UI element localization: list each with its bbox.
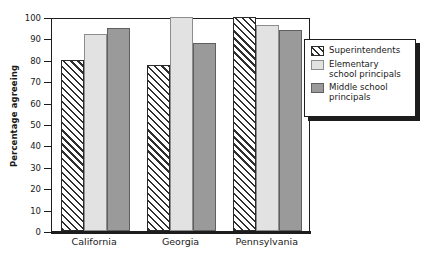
y-axis-tick <box>44 39 51 40</box>
y-axis-tick-label: 80 <box>0 57 41 66</box>
bar <box>107 28 130 231</box>
y-axis-tick <box>44 104 51 105</box>
x-axis-category-label: Pennsylvania <box>207 236 327 247</box>
legend-swatch-icon <box>311 46 324 56</box>
y-axis-tick <box>44 125 51 126</box>
y-axis-tick-label: 40 <box>0 142 41 151</box>
legend-swatch-icon <box>311 60 324 70</box>
bar <box>193 43 216 231</box>
y-axis-tick <box>44 232 51 233</box>
y-axis-tick <box>44 61 51 62</box>
legend-item-label: Superintendents <box>329 45 400 55</box>
bar <box>279 30 302 231</box>
bar-chart: Percentage agreeing 01020304050607080901… <box>0 0 423 259</box>
y-axis-tick-label: 30 <box>0 164 41 173</box>
y-axis-tick <box>44 82 51 83</box>
legend-item[interactable]: Middle school principals <box>311 82 411 102</box>
y-axis-tick-label: 90 <box>0 35 41 44</box>
legend-item[interactable]: Superintendents <box>311 45 411 56</box>
x-axis-baseline <box>51 231 311 234</box>
bar <box>147 65 170 231</box>
bar <box>61 60 84 231</box>
y-axis-tick <box>44 168 51 169</box>
y-axis-tick-label: 20 <box>0 185 41 194</box>
legend: SuperintendentsElementary school princip… <box>304 39 416 117</box>
bar <box>170 17 193 231</box>
y-axis-tick-label: 100 <box>0 14 41 23</box>
y-axis-tick-label: 70 <box>0 78 41 87</box>
y-axis-tick-label: 50 <box>0 121 41 130</box>
legend-item-label: Middle school principals <box>329 82 388 102</box>
y-axis-tick <box>44 211 51 212</box>
legend-swatch-icon <box>311 83 324 93</box>
y-axis-tick <box>44 146 51 147</box>
y-axis-tick-label: 60 <box>0 100 41 109</box>
bar <box>84 34 107 231</box>
bar <box>233 17 256 231</box>
bar <box>256 25 279 232</box>
y-axis-tick-label: 10 <box>0 207 41 216</box>
legend-item-label: Elementary school principals <box>329 59 401 79</box>
y-axis-tick <box>44 18 51 19</box>
plot-area <box>51 18 310 232</box>
y-axis-tick <box>44 189 51 190</box>
legend-item[interactable]: Elementary school principals <box>311 59 411 79</box>
